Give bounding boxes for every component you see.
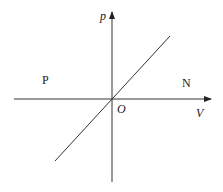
origin-label: O: [117, 102, 126, 116]
region-label-p: P: [42, 73, 49, 87]
region-label-n: N: [182, 76, 191, 90]
x-axis-label: V: [196, 106, 205, 120]
y-axis-label: p: [99, 9, 106, 23]
p-v-diagram: p O V P N: [0, 0, 223, 192]
